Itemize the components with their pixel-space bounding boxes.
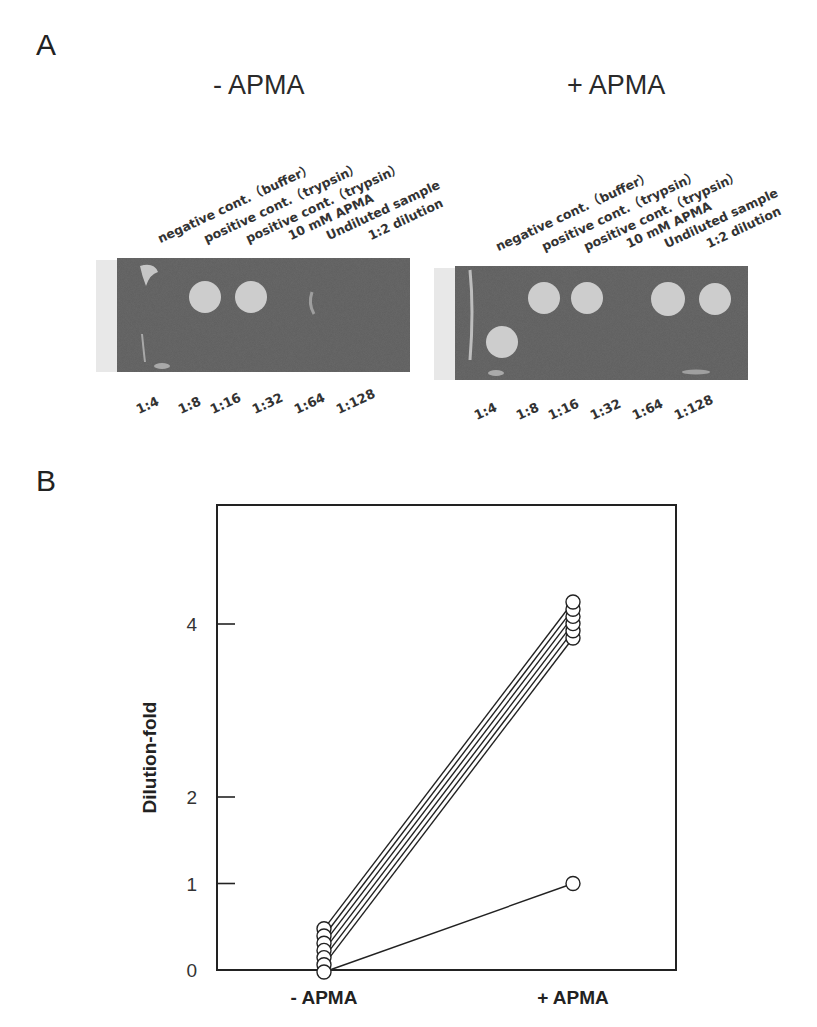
y-tick-label: 4 (186, 614, 197, 635)
series-line (324, 609, 573, 936)
y-tick-label: 1 (186, 874, 197, 895)
data-point-marker (566, 595, 580, 609)
y-tick-label: 2 (186, 787, 197, 808)
plot-frame (217, 505, 676, 970)
data-point-marker (317, 965, 331, 979)
x-category-label: + APMA (537, 987, 609, 1008)
dilution-fold-chart: 0124Dilution-fold- APMA+ APMA (0, 0, 817, 1027)
data-point-marker (566, 877, 580, 891)
series-line (324, 631, 573, 958)
series-line (324, 602, 573, 929)
x-category-label: - APMA (291, 987, 358, 1008)
series-line (324, 638, 573, 965)
series-line (324, 616, 573, 943)
series-line (324, 624, 573, 951)
y-tick-label: 0 (186, 960, 197, 981)
series-line (324, 884, 573, 973)
y-axis-label: Dilution-fold (139, 702, 160, 814)
